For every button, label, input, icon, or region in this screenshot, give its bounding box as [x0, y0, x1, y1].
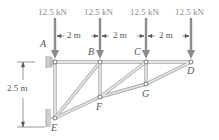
truss-members — [55, 62, 191, 118]
span-label-BC: 2 m — [113, 30, 127, 40]
node-label-B: B — [88, 46, 94, 57]
height-dimension — [17, 62, 45, 127]
load-label-A: 12.5 kN — [38, 7, 67, 17]
height-label: 2.5 m — [7, 83, 28, 93]
node-label-G: G — [142, 88, 149, 99]
load-label-C: 12.5 kN — [130, 7, 159, 17]
node-label-E: E — [51, 122, 57, 133]
span-label-CD: 2 m — [159, 30, 173, 40]
load-label-D: 12.5 kN — [175, 7, 204, 17]
node-label-A: A — [40, 38, 46, 49]
span-label-AB: 2 m — [67, 30, 81, 40]
node-label-F: F — [96, 101, 102, 112]
node-label-C: C — [134, 46, 141, 57]
load-label-B: 12.5 kN — [84, 7, 113, 17]
node-label-D: D — [187, 65, 194, 76]
